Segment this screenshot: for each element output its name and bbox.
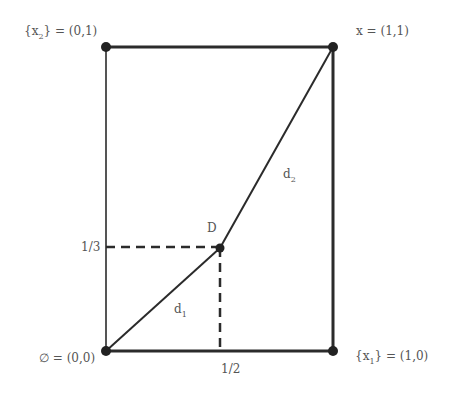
label-top-left: {x2} = (0,1) (24, 24, 97, 41)
label-d1: d1 (174, 302, 187, 319)
vertex-D (216, 244, 225, 253)
label-d2: d2 (283, 167, 296, 184)
diagram-canvas: {x2} = (0,1) x = (1,1) ∅ = (0,0) {x1} = … (0, 0, 455, 394)
tick-label-y: 1/3 (81, 240, 100, 254)
vertex-bottom-right (328, 346, 338, 356)
vertex-top-right (328, 42, 338, 52)
segment-d1 (106, 248, 220, 351)
vertex-bottom-left (101, 346, 111, 356)
segment-d2 (220, 47, 333, 248)
tick-label-x: 1/2 (221, 362, 240, 376)
vertex-top-left (101, 42, 111, 52)
label-top-right: x = (1,1) (356, 24, 409, 38)
label-D: D (207, 221, 217, 235)
label-bottom-right: {x1} = (1,0) (355, 349, 428, 366)
label-bottom-left: ∅ = (0,0) (39, 351, 95, 365)
